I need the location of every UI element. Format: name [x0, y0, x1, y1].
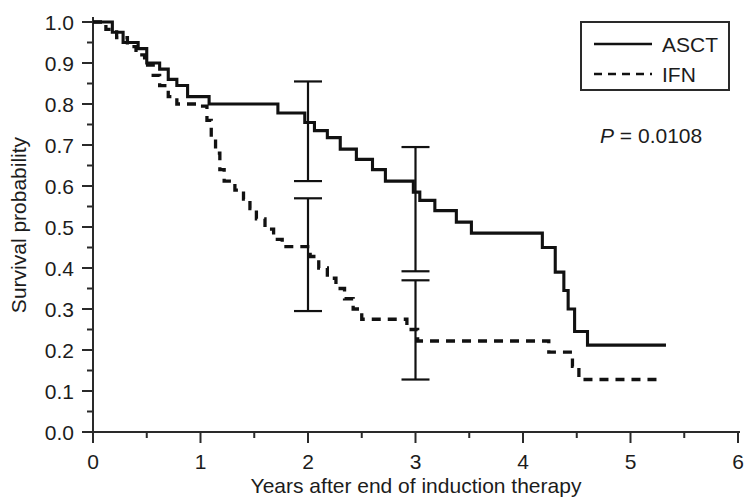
y-tick-label-0.1: 0.1 [45, 380, 74, 403]
legend-label-ifn: IFN [662, 63, 696, 86]
y-tick-label-1.0: 1.0 [45, 11, 74, 34]
x-tick-label-5: 5 [625, 450, 637, 473]
x-tick-label-0: 0 [87, 450, 99, 473]
x-tick-label-3: 3 [410, 450, 422, 473]
y-tick-label-0.3: 0.3 [45, 298, 74, 321]
y-tick-label-0.9: 0.9 [45, 52, 74, 75]
x-tick-label-4: 4 [517, 450, 529, 473]
y-tick-label-0.6: 0.6 [45, 175, 74, 198]
y-tick-label-0.4: 0.4 [45, 257, 75, 280]
legend: ASCT IFN [581, 22, 729, 90]
legend-label-asct: ASCT [662, 33, 718, 56]
x-axis-title: Years after end of induction therapy [251, 474, 582, 497]
p-value-rest: = 0.0108 [614, 124, 702, 147]
p-symbol: P [600, 124, 614, 147]
x-tick-label-2: 2 [302, 450, 314, 473]
p-value-annotation: P = 0.0108 [600, 124, 702, 147]
y-tick-label-0.0: 0.0 [45, 421, 74, 444]
y-tick-label-0.8: 0.8 [45, 93, 74, 116]
y-axis-title: Survival probability [7, 136, 30, 313]
survival-chart: 1.0 0.9 0.8 0.7 0.6 0.5 0.4 0.3 0.2 0.1 … [0, 0, 747, 497]
y-tick-label-0.2: 0.2 [45, 339, 74, 362]
figure-root: 1.0 0.9 0.8 0.7 0.6 0.5 0.4 0.3 0.2 0.1 … [0, 0, 747, 497]
y-tick-label-0.5: 0.5 [45, 216, 74, 239]
x-tick-label-1: 1 [195, 450, 207, 473]
x-tick-label-6: 6 [732, 450, 744, 473]
y-tick-label-0.7: 0.7 [45, 134, 74, 157]
